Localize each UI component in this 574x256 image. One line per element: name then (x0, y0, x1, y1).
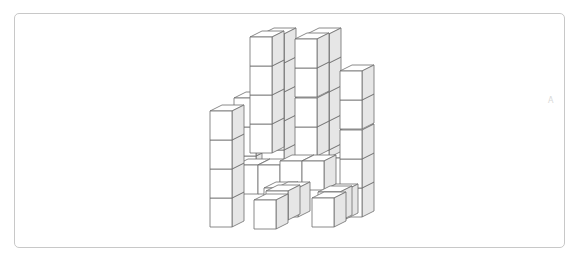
cube-front-face (295, 127, 317, 156)
cube (340, 65, 374, 100)
cube-front-face (210, 169, 232, 198)
cube (254, 194, 288, 229)
cube-front-face (250, 66, 272, 95)
cube-side-face (272, 31, 284, 66)
cube-front-face (340, 71, 362, 100)
cube-front-face (254, 200, 276, 229)
cube-side-face (362, 65, 374, 100)
cube (312, 192, 346, 227)
cube-side-face (288, 185, 300, 220)
cube-front-face (210, 198, 232, 227)
cube-side-face (329, 28, 341, 63)
cube-side-face (284, 28, 296, 63)
cube-front-face (340, 130, 362, 159)
cube-group (210, 28, 374, 229)
faint-corner-mark: A (548, 96, 553, 105)
cube-side-face (362, 124, 374, 159)
cube (210, 105, 244, 140)
cube-side-face (232, 105, 244, 140)
cube-stack-diagram (0, 0, 574, 256)
cube-front-face (295, 68, 317, 97)
cube-front-face (250, 37, 272, 66)
cube-front-face (312, 198, 334, 227)
cube-front-face (295, 98, 317, 127)
cube (250, 31, 284, 66)
cube-front-face (210, 111, 232, 140)
cube-front-face (250, 124, 272, 153)
cube-side-face (317, 33, 329, 68)
cube-front-face (210, 140, 232, 169)
cube-side-face (276, 194, 288, 229)
cube-front-face (250, 95, 272, 124)
cube (295, 33, 329, 68)
cube-front-face (295, 39, 317, 68)
cube-side-face (334, 192, 346, 227)
cube-front-face (340, 100, 362, 129)
cube-side-face (317, 92, 329, 127)
